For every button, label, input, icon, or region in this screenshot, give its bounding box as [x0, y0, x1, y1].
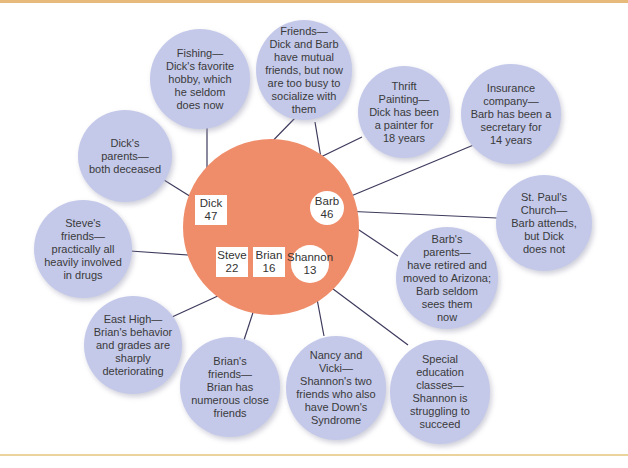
connector-st-pauls-barb [343, 211, 497, 218]
member-shannon: Shannon 13 [291, 245, 329, 283]
bubble-steves-friends: Steve's friends— practically all heavily… [34, 200, 132, 298]
bubble-special-ed: Special education classes— Shannon is st… [390, 340, 490, 444]
bubble-brians-friends-text: Brian's friends— Brian has numerous clos… [191, 355, 269, 420]
bubble-dicks-parents: Dick's parents— both deceased [78, 110, 172, 202]
bubble-special-ed-text: Special education classes— Shannon is st… [410, 353, 470, 431]
bubble-st-pauls-text: St. Paul's Church— Barb attends, but Dic… [511, 191, 576, 256]
bubble-thrift-painting-text: Thrift Painting— Dick has been a painter… [369, 80, 439, 145]
bubble-fishing: Fishing— Dick's favorite hobby, which he… [150, 29, 250, 129]
member-dick: Dick 47 [195, 195, 227, 225]
bubble-thrift-painting: Thrift Painting— Dick has been a painter… [358, 66, 450, 158]
bubble-friends-text: Friends— Dick and Barb have mutual frien… [265, 25, 343, 116]
bubble-barbs-parents: Barb's parents— have retired and moved t… [396, 227, 498, 329]
bubble-east-high-text: East High— Brian's behavior and grades a… [94, 313, 173, 378]
bubble-st-pauls: St. Paul's Church— Barb attends, but Dic… [496, 175, 592, 271]
member-brian: Brian 16 [253, 247, 285, 277]
member-steve: Steve 22 [216, 247, 248, 277]
bubble-insurance: Insurance company— Barb has been a secre… [461, 64, 561, 164]
bubble-east-high: East High— Brian's behavior and grades a… [84, 296, 182, 394]
family-circle [183, 139, 359, 315]
bubble-barbs-parents-text: Barb's parents— have retired and moved t… [403, 233, 491, 324]
bottom-rule [0, 454, 628, 456]
bubble-nancy-vicki-text: Nancy and Vicki— Shannon's two friends w… [296, 349, 376, 427]
bubble-dicks-parents-text: Dick's parents— both deceased [89, 137, 161, 176]
bubble-brians-friends: Brian's friends— Brian has numerous clos… [180, 337, 280, 437]
bubble-insurance-text: Insurance company— Barb has been a secre… [471, 82, 552, 147]
bubble-fishing-text: Fishing— Dick's favorite hobby, which he… [166, 47, 234, 112]
bubble-steves-friends-text: Steve's friends— practically all heavily… [44, 217, 122, 282]
member-barb: Barb 46 [310, 191, 344, 225]
bubble-nancy-vicki: Nancy and Vicki— Shannon's two friends w… [286, 336, 386, 440]
bubble-friends: Friends— Dick and Barb have mutual frien… [256, 20, 352, 120]
